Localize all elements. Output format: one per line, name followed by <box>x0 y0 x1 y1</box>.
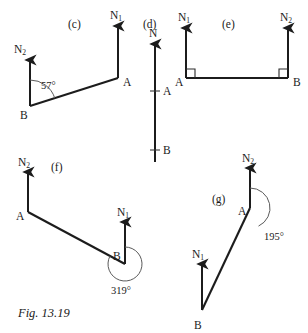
station-label-d-B: B <box>163 145 171 157</box>
figure-13-19: (c)N1N2AB57°(d)NAB(e)N1N2AB(f)N2N1AB319°… <box>0 0 308 333</box>
angle-value-c-0: 57° <box>41 80 56 91</box>
station-label-e-A: A <box>175 77 183 89</box>
station-label-c-A: A <box>123 77 131 89</box>
panel-tag-e: (e) <box>222 18 235 30</box>
north-label-d-N: N <box>149 28 157 40</box>
station-label-f-A: A <box>16 211 24 223</box>
panel-tag-c: (c) <box>68 18 81 30</box>
angle-arcs <box>30 80 270 281</box>
north-label-g-N1: N1 <box>192 249 204 261</box>
station-label-d-A: A <box>163 86 171 98</box>
survey-line-f-0 <box>28 212 125 264</box>
station-label-g-A: A <box>238 206 246 218</box>
angle-value-g-0: 195° <box>264 231 284 242</box>
right-angle-mark-e-1 <box>279 69 288 78</box>
station-label-f-B: B <box>113 251 121 263</box>
north-label-g-N2: N2 <box>242 153 254 165</box>
station-label-c-B: B <box>20 110 28 122</box>
panel-tag-f: (f) <box>51 161 63 173</box>
north-label-e-N2: N2 <box>280 12 292 24</box>
station-label-e-B: B <box>293 77 301 89</box>
north-label-f-N1: N1 <box>117 207 129 219</box>
north-label-f-N2: N2 <box>18 157 30 169</box>
figure-drawing-canvas <box>0 0 308 333</box>
right-angle-marks <box>186 69 288 78</box>
north-label-e-N1: N1 <box>178 12 190 24</box>
right-angle-mark-e-0 <box>186 69 195 78</box>
north-label-c-N2: N2 <box>14 44 26 56</box>
north-label-c-N1: N1 <box>110 10 122 22</box>
angle-value-f-0: 319° <box>111 285 131 296</box>
panel-tag-g: (g) <box>212 193 225 205</box>
survey-line-g-0 <box>202 208 250 310</box>
north-arrow-lines <box>28 26 288 310</box>
station-label-g-B: B <box>194 320 202 332</box>
angle-arc-g-0 <box>250 188 270 226</box>
figure-caption: Fig. 13.19 <box>18 306 70 321</box>
